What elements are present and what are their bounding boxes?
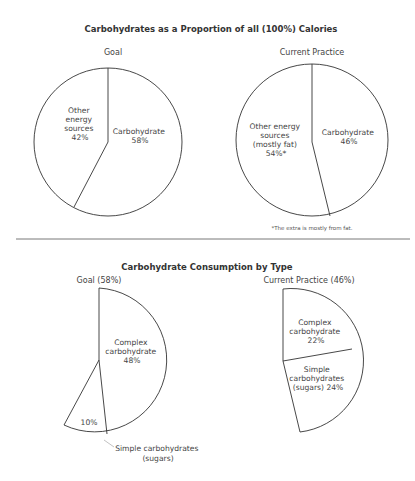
current-pie-label: Current Practice (280, 48, 345, 57)
footnote: *The extra is mostly from fat. (272, 225, 353, 232)
current-type-pie (283, 288, 364, 432)
current-type-label: Current Practice (46%) (263, 276, 354, 285)
goal-pie-label: Goal (104, 48, 122, 57)
goal-pie (34, 68, 182, 216)
top-title: Carbohydrates as a Proportion of all (10… (85, 24, 338, 34)
callout-line (104, 440, 114, 447)
goal-simple-value: 10% (81, 418, 98, 427)
goal-simple-callout: Simple carbohydrates (sugars) (115, 444, 201, 463)
bottom-title: Carbohydrate Consumption by Type (121, 262, 292, 272)
goal-type-label: Goal (58%) (77, 276, 122, 285)
goal-type-pie (64, 288, 167, 434)
carbohydrate-charts: Carbohydrates as a Proportion of all (10… (0, 0, 415, 481)
